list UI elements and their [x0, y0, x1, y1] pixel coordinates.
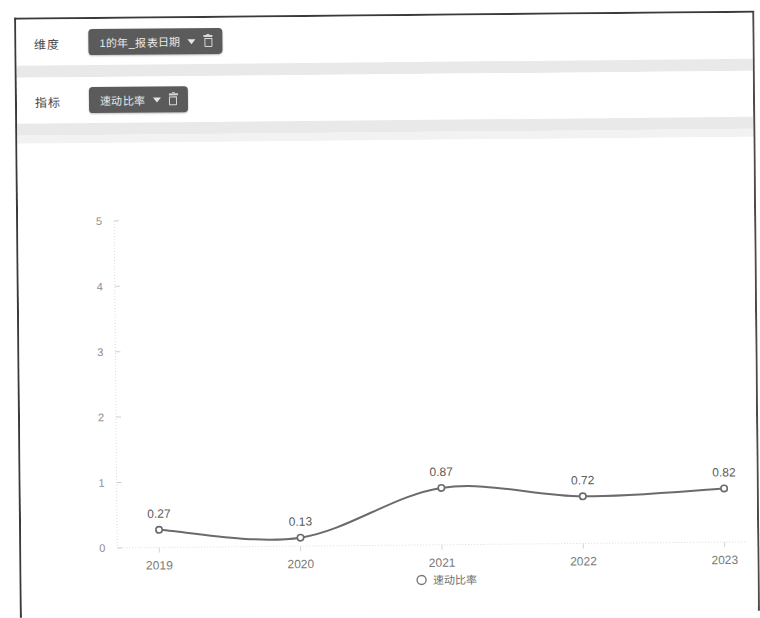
x-tick-label: 2021	[429, 556, 456, 570]
metric-chip[interactable]: 速动比率	[89, 86, 188, 113]
trash-icon[interactable]	[203, 35, 214, 47]
data-point[interactable]	[438, 485, 444, 491]
filter-row-metric: 指标 速动比率	[17, 71, 753, 124]
x-tick-label: 2023	[711, 553, 738, 567]
data-point[interactable]	[156, 527, 162, 533]
series-line	[159, 484, 725, 541]
y-tick-label: 5	[96, 215, 102, 227]
y-tick-label: 3	[97, 346, 103, 358]
y-tick-label: 1	[98, 477, 104, 489]
x-tick-label: 2019	[146, 558, 173, 572]
chart-canvas: 012345 20192020202120222023 0.270.130.87…	[17, 137, 759, 614]
data-point[interactable]	[580, 493, 586, 499]
data-point-label: 0.27	[147, 507, 171, 521]
y-tick-label: 0	[99, 542, 105, 554]
data-point-label: 0.82	[712, 465, 736, 479]
x-axis: 20192020202120222023	[117, 542, 747, 573]
dimension-chip[interactable]: 1的年_报表日期	[88, 28, 223, 55]
y-tick-label: 2	[98, 411, 104, 423]
y-axis: 012345	[96, 215, 122, 554]
metric-chip-label: 速动比率	[100, 92, 146, 108]
trash-icon[interactable]	[168, 93, 179, 105]
data-point-label: 0.13	[289, 515, 313, 529]
chevron-down-icon[interactable]	[188, 39, 196, 44]
legend-marker-icon	[417, 575, 426, 584]
data-point-label: 0.72	[571, 473, 595, 487]
line-chart: 012345 20192020202120222023 0.270.130.87…	[17, 137, 757, 614]
data-point-label: 0.87	[429, 465, 453, 479]
chevron-down-icon[interactable]	[153, 97, 161, 102]
report-panel: 维度 1的年_报表日期 指标 速动比率	[14, 11, 760, 618]
filter-label-metric: 指标	[17, 92, 89, 110]
scanned-page: 维度 1的年_报表日期 指标 速动比率	[0, 0, 757, 584]
legend-label[interactable]: 速动比率	[433, 572, 477, 585]
dimension-chip-label: 1的年_报表日期	[99, 33, 181, 50]
data-point[interactable]	[721, 485, 727, 491]
y-tick-label: 4	[97, 280, 103, 292]
x-tick-label: 2022	[570, 554, 597, 568]
filter-label-dimension: 维度	[16, 34, 88, 52]
data-point[interactable]	[297, 534, 303, 540]
x-tick-label: 2020	[287, 557, 314, 571]
filter-row-dimension: 维度 1的年_报表日期	[16, 13, 752, 66]
series-layer	[155, 482, 727, 542]
data-labels: 0.270.130.870.720.82	[147, 462, 737, 530]
chart-legend[interactable]: 速动比率	[417, 572, 477, 586]
